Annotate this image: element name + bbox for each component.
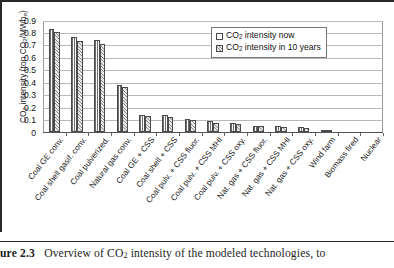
bar-group bbox=[139, 21, 150, 132]
y-tick-label: 0.4 bbox=[12, 79, 36, 88]
bar-group bbox=[117, 21, 128, 132]
figure-screenshot: CO2 intensity (ton CO2/MWhe) 00.10.20.30… bbox=[0, 0, 394, 268]
legend-item-now: CO2 intensity now bbox=[216, 30, 321, 42]
legend-label-10-years: CO2 intensity in 10 years bbox=[226, 43, 321, 52]
bar-group bbox=[71, 21, 82, 132]
figure-top-rule bbox=[0, 0, 394, 2]
bar-group bbox=[162, 21, 173, 132]
bar-in-10-years bbox=[213, 123, 219, 132]
bar-in-10-years bbox=[54, 32, 60, 132]
y-tick-label: 0.3 bbox=[12, 91, 36, 100]
bar-in-10-years bbox=[168, 117, 174, 132]
caption-number: ure 2.3 bbox=[0, 247, 35, 260]
chart-legend: CO2 intensity now CO2 intensity in 10 ye… bbox=[211, 27, 327, 58]
bar-in-10-years bbox=[100, 44, 106, 132]
y-tick-label: 0.6 bbox=[12, 54, 36, 63]
y-tick-label: 0.7 bbox=[12, 41, 36, 50]
y-tick-label: 0.9 bbox=[12, 17, 36, 26]
bar-in-10-years bbox=[77, 41, 83, 132]
y-tick-label: 0 bbox=[12, 129, 36, 138]
y-tick-label: 0.1 bbox=[12, 116, 36, 125]
legend-swatch-10-years bbox=[216, 45, 223, 52]
bar-group bbox=[94, 21, 105, 132]
x-axis-baseline bbox=[43, 132, 383, 133]
figure-panel: CO2 intensity (ton CO2/MWhe) 00.10.20.30… bbox=[0, 0, 394, 232]
bar-in-10-years bbox=[122, 87, 128, 132]
bar-in-10-years bbox=[145, 116, 151, 132]
legend-label-now: CO2 intensity now bbox=[226, 31, 294, 40]
x-category-label: Nuclear bbox=[359, 136, 383, 163]
bar-group bbox=[185, 21, 196, 132]
figure-left-rule bbox=[0, 0, 2, 232]
caption-rule bbox=[0, 241, 394, 242]
legend-swatch-now bbox=[216, 33, 223, 40]
y-tick-label: 0.5 bbox=[12, 66, 36, 75]
caption-body: Overview of CO2 intensity of the modeled… bbox=[44, 247, 325, 260]
legend-item-10-years: CO2 intensity in 10 years bbox=[216, 42, 321, 54]
y-tick-label: 0.8 bbox=[12, 29, 36, 38]
figure-caption: ure 2.3 Overview of CO2 intensity of the… bbox=[0, 247, 394, 260]
bar-in-10-years bbox=[190, 120, 196, 132]
x-axis-category-labels: Coal GE conv.Coal shell gasif. conv.Coal… bbox=[43, 136, 388, 228]
bar-group bbox=[49, 21, 60, 132]
bar-in-10-years bbox=[236, 124, 242, 132]
y-tick-label: 0.2 bbox=[12, 104, 36, 113]
